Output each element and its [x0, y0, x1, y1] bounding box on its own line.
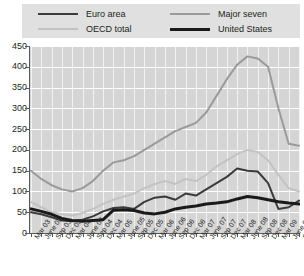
series-layer: [30, 46, 300, 233]
y-axis-tick-mark: [25, 233, 29, 234]
legend-label-oecd-total: OECD total: [86, 22, 132, 36]
y-axis-tick-label: 50: [1, 208, 27, 217]
y-axis-tick-label: 250: [1, 125, 27, 134]
y-axis-tick-mark: [25, 108, 29, 109]
plot-area: [30, 46, 300, 233]
y-axis-tick-mark: [25, 129, 29, 130]
legend-swatch-united-states: [170, 28, 210, 31]
x-axis-labels: Mar 03June 03Sep 03Dec 03Mar 04June 04Se…: [0, 236, 304, 276]
y-axis-tick-mark: [25, 150, 29, 151]
series-line-united-states: [31, 196, 299, 221]
legend-swatch-oecd-total: [38, 28, 78, 30]
y-axis-tick-label: 200: [1, 145, 27, 154]
y-axis-tick-label: 150: [1, 166, 27, 175]
y-axis-tick-mark: [25, 46, 29, 47]
y-axis-line: [29, 46, 30, 234]
y-axis-tick-label: 400: [1, 62, 27, 71]
y-axis-tick-label: 100: [1, 187, 27, 196]
series-line-oecd-total: [31, 150, 299, 216]
y-axis-tick-mark: [25, 171, 29, 172]
y-axis-labels: 450400350300250200150100500: [0, 0, 27, 276]
y-axis-tick-label: 350: [1, 83, 27, 92]
y-axis-tick-mark: [25, 67, 29, 68]
y-axis-tick-label: 450: [1, 42, 27, 51]
y-axis-tick-label: 300: [1, 104, 27, 113]
y-axis-tick-mark: [25, 88, 29, 89]
y-axis-tick-mark: [25, 191, 29, 192]
chart-container: Euro area OECD total Major seven United …: [0, 0, 304, 276]
legend-swatch-euro-area: [38, 13, 78, 15]
legend-label-major-seven: Major seven: [218, 7, 267, 21]
legend-label-euro-area: Euro area: [86, 7, 126, 21]
legend-swatch-major-seven: [170, 13, 210, 15]
legend-label-united-states: United States: [218, 22, 272, 36]
chart-legend: Euro area OECD total Major seven United …: [22, 4, 300, 38]
y-axis-tick-mark: [25, 212, 29, 213]
